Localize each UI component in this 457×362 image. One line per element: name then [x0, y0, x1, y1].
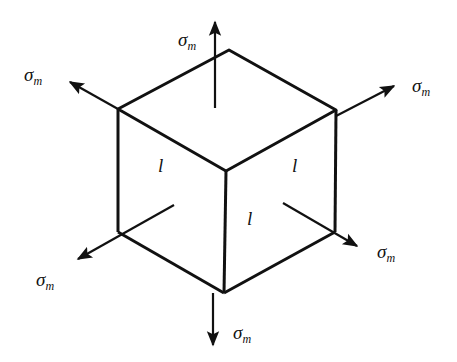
arrow-upper-left	[70, 82, 118, 109]
label-upper-left: σm	[24, 64, 42, 88]
cube	[118, 50, 336, 293]
label-lower-right: σm	[377, 241, 395, 265]
label-bottom: σm	[233, 322, 251, 346]
arrow-lower-left	[78, 205, 174, 259]
face-label-right: l	[292, 155, 297, 176]
cube-front-edge	[224, 171, 226, 293]
label-top: σm	[178, 29, 196, 53]
arrow-upper-right	[336, 86, 394, 116]
cube-bottom-right-edge	[224, 232, 335, 293]
label-lower-left: σm	[36, 269, 54, 293]
face-label-front: l	[247, 208, 252, 229]
cube-bottom-left-edge	[118, 232, 224, 293]
label-upper-right: σm	[412, 75, 430, 99]
cube-right-edge	[335, 110, 336, 232]
cube-top-face	[118, 50, 336, 171]
hydrostatic-stress-cube-diagram: σm σm σm σm σm σm l l l	[0, 0, 457, 362]
face-label-left: l	[158, 155, 163, 176]
